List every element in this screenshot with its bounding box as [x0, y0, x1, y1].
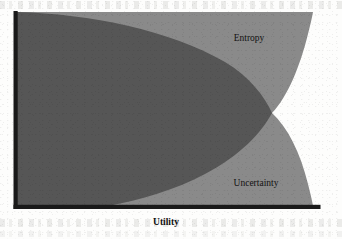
y-axis-line [14, 11, 18, 209]
entropy-uncertainty-utility-chart: Entropy Uncertainty Utility [0, 0, 342, 239]
entropy-region-label: Entropy [234, 33, 265, 43]
x-axis-line [14, 205, 321, 209]
figure-page: Entropy Uncertainty Utility [0, 0, 342, 239]
x-axis-title: Utility [153, 217, 179, 227]
plot-area [17, 12, 342, 206]
uncertainty-region-label: Uncertainty [234, 178, 279, 188]
